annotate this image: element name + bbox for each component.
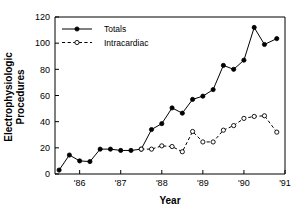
data-point-intracardiac [242, 116, 246, 120]
x-tick-label: '89 [197, 178, 209, 188]
data-point-totals [275, 36, 279, 40]
data-point-totals [170, 106, 174, 110]
y-tick-label: 80 [40, 65, 50, 75]
y-tick-label: 60 [40, 91, 50, 101]
y-tick-label: 120 [35, 12, 50, 22]
data-point-totals [119, 148, 123, 152]
line-chart: 020406080100120 '86'87'88'89'90'91 Total… [0, 0, 293, 209]
data-point-intracardiac [190, 129, 194, 133]
y-tick-label: 40 [40, 117, 50, 127]
x-tick-label: '91 [279, 178, 291, 188]
data-point-totals [160, 122, 164, 126]
y-axis-title-line1: Electrophysiologic [3, 52, 14, 142]
data-point-totals [78, 159, 82, 163]
data-point-intracardiac [211, 140, 215, 144]
data-point-intracardiac [252, 114, 256, 118]
x-axis-title: Year [159, 195, 180, 206]
data-point-intracardiac [139, 147, 143, 151]
data-point-intracardiac [170, 144, 174, 148]
x-tick-label: '87 [115, 178, 127, 188]
chart-legend: TotalsIntracardiac [62, 24, 149, 48]
data-point-totals [252, 25, 256, 29]
data-point-totals [108, 147, 112, 151]
chart-container: 020406080100120 '86'87'88'89'90'91 Total… [0, 0, 293, 209]
data-point-intracardiac [221, 128, 225, 132]
data-point-totals [221, 63, 225, 67]
x-tick-label: '86 [74, 178, 86, 188]
series-line-totals [59, 27, 277, 170]
data-point-totals [232, 67, 236, 71]
data-point-totals [262, 42, 266, 46]
data-point-totals [180, 111, 184, 115]
data-point-totals [149, 127, 153, 131]
data-point-intracardiac [262, 114, 266, 118]
data-point-totals [129, 148, 133, 152]
data-point-totals [98, 147, 102, 151]
data-point-intracardiac [180, 150, 184, 154]
y-axis-title-line2: Procedures [15, 69, 26, 124]
y-tick-label: 20 [40, 143, 50, 153]
data-point-totals [88, 159, 92, 163]
series-layer [57, 25, 279, 172]
data-point-intracardiac [201, 140, 205, 144]
data-point-intracardiac [232, 123, 236, 127]
legend-marker-intracardiac [75, 40, 79, 44]
x-tick-label: '90 [238, 178, 250, 188]
data-point-intracardiac [160, 144, 164, 148]
legend-marker-totals [75, 27, 79, 31]
legend-label-intracardiac: Intracardiac [104, 38, 149, 48]
x-tick-label: '88 [156, 178, 168, 188]
data-point-totals [242, 58, 246, 62]
data-point-totals [57, 168, 61, 172]
x-axis-ticks: '86'87'88'89'90'91 [74, 170, 291, 188]
data-point-intracardiac [149, 147, 153, 151]
y-tick-label: 0 [45, 169, 50, 179]
y-tick-label: 100 [35, 38, 50, 48]
data-point-intracardiac [275, 130, 279, 134]
data-point-totals [211, 88, 215, 92]
data-point-totals [201, 94, 205, 98]
data-point-totals [67, 153, 71, 157]
legend-label-totals: Totals [104, 24, 126, 34]
data-point-totals [190, 97, 194, 101]
